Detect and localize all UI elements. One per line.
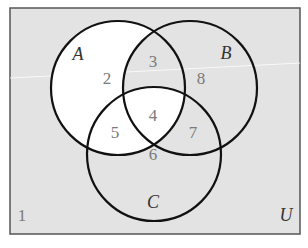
region-3-label: 3: [149, 52, 158, 71]
region-2-label: 2: [103, 69, 112, 88]
region-7-label: 7: [189, 123, 198, 142]
region-5-label: 5: [111, 123, 120, 142]
region-4-label: 4: [149, 106, 158, 125]
universe-label: U: [280, 205, 294, 225]
region-6-label: 6: [149, 145, 158, 164]
set-label-c: C: [147, 192, 160, 212]
region-8-label: 8: [197, 69, 206, 88]
set-label-a: A: [72, 44, 85, 64]
region-1-label: 1: [18, 206, 27, 225]
set-label-b: B: [221, 43, 232, 63]
venn-diagram: A B C U 1 2 3 4 5 6 7 8: [0, 0, 308, 248]
